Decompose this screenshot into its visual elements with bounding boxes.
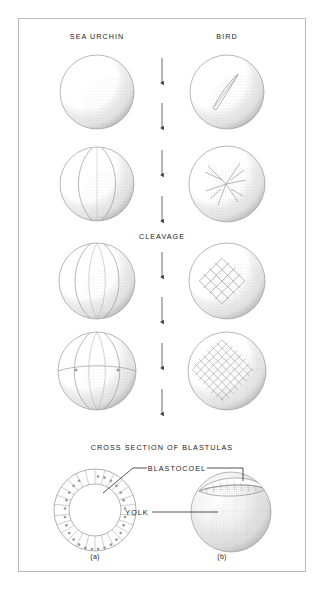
process-label-cleavage: CLEAVAGE <box>139 232 185 241</box>
bird-stage-radial-furrows <box>189 146 274 232</box>
bird-stage-single-furrow <box>190 55 273 138</box>
panel-caption-b: (b) <box>217 553 226 560</box>
annotation-yolk: YOLK <box>125 508 148 517</box>
column-header-sea-urchin: SEA URCHIN <box>70 32 124 41</box>
sea-urchin-stage-4-cell <box>59 243 144 329</box>
embryo-cleavage-diagram <box>0 0 324 590</box>
bird-stage-grid-fine <box>188 332 275 421</box>
section-title-cross-section: CROSS SECTION OF BLASTULAS <box>91 443 233 452</box>
blastocoel-leader-left <box>103 468 133 493</box>
sea-urchin-stage-8-cell <box>58 332 145 420</box>
bird-blastula-cross-section <box>191 472 281 564</box>
panel-caption-a: (a) <box>90 553 99 560</box>
sea-urchin-blastula-cross-section <box>54 469 136 551</box>
figure-page: SEA URCHIN BIRD CLEAVAGE CROSS SECTION O… <box>0 0 324 590</box>
annotation-blastocoel: BLASTOCOEL <box>148 464 206 473</box>
bird-stage-grid-early <box>189 243 274 329</box>
column-header-bird: BIRD <box>216 32 237 41</box>
sea-urchin-stage-2-cell <box>60 147 142 230</box>
sea-urchin-stage-egg <box>60 55 142 138</box>
